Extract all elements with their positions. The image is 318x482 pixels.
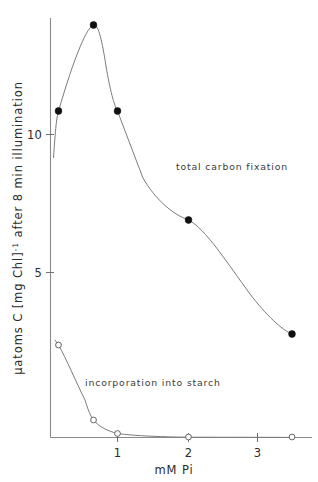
x-tick-label-2: 2: [185, 446, 193, 460]
figure-canvas: 10 5 1 2 3 mM Pi μatoms C [mg Chl]-1 aft…: [0, 0, 318, 482]
chart-svg: 10 5 1 2 3 mM Pi μatoms C [mg Chl]-1 aft…: [0, 0, 318, 482]
point-incorporation-into-starch-4: [186, 434, 192, 440]
point-incorporation-into-starch-2: [91, 417, 97, 423]
x-tick-label-1: 1: [114, 446, 122, 460]
point-total-carbon-fixation-3: [114, 108, 121, 115]
point-incorporation-into-starch-3: [115, 431, 121, 437]
annotation-total-carbon-fixation: total carbon fixation: [176, 161, 288, 172]
point-incorporation-into-starch-5: [289, 434, 295, 440]
y-axis-label: μatoms C [mg Chl]-1 after 8 min illumina…: [11, 81, 25, 375]
point-total-carbon-fixation-2: [90, 22, 97, 29]
point-total-carbon-fixation-4: [185, 217, 192, 224]
series-incorporation-into-starch: [55, 340, 295, 440]
series-total-carbon-fixation: [54, 22, 296, 338]
point-total-carbon-fixation-5: [289, 331, 296, 338]
y-axis-label-tail: after 8 min illumination: [11, 81, 25, 242]
y-tick-label-5: 5: [34, 266, 42, 280]
y-axis-label-group: μatoms C [mg Chl]-1 after 8 min illumina…: [11, 81, 25, 375]
point-incorporation-into-starch-1: [56, 342, 62, 348]
x-tick-label-3: 3: [254, 446, 262, 460]
annotation-incorporation-into-starch: incorporation into starch: [85, 377, 221, 388]
curve-incorporation-into-starch: [55, 340, 292, 437]
y-axis-label-exponent: -1: [11, 242, 20, 251]
y-axis-label-main: μatoms C [mg Chl]: [11, 251, 25, 374]
curve-total-carbon-fixation: [54, 25, 293, 334]
x-axis-label: mM Pi: [154, 463, 193, 477]
point-total-carbon-fixation-1: [55, 108, 62, 115]
y-tick-label-10: 10: [27, 128, 42, 142]
